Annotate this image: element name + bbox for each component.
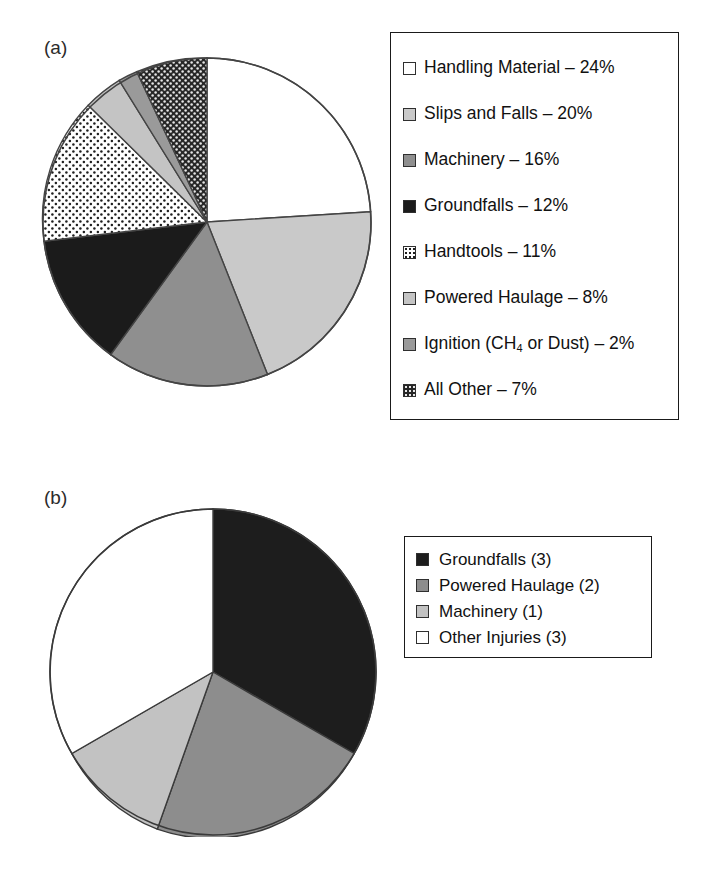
- legend-item-ignition: Ignition (CH4 or Dust) – 2%: [403, 321, 668, 367]
- legend-swatch-handtools: [403, 246, 416, 259]
- legend-item-handtools: Handtools – 11%: [403, 229, 668, 275]
- legend-swatch-b-groundfalls: [416, 553, 429, 566]
- figure-root: (a): [0, 0, 707, 884]
- legend-label-b-groundfalls: Groundfalls (3): [439, 551, 551, 568]
- pie-chart-a: [40, 55, 376, 391]
- legend-label-slips-and-falls: Slips and Falls – 20%: [424, 105, 592, 123]
- legend-swatch-b-machinery: [416, 605, 429, 618]
- legend-panel-a: Handling Material – 24% Slips and Falls …: [390, 32, 679, 420]
- legend-label-machinery: Machinery – 16%: [424, 151, 559, 169]
- pie-a-svg: [40, 55, 376, 391]
- legend-swatch-all-other: [403, 384, 416, 397]
- legend-item-powered-haulage: Powered Haulage – 8%: [403, 275, 668, 321]
- legend-item-groundfalls: Groundfalls – 12%: [403, 183, 668, 229]
- legend-swatch-b-powered-haulage: [416, 579, 429, 592]
- panel-label-b: (b): [44, 487, 67, 509]
- legend-item-all-other: All Other – 7%: [403, 367, 668, 413]
- legend-item-b-other-injuries: Other Injuries (3): [416, 624, 643, 650]
- legend-swatch-b-other-injuries: [416, 631, 429, 644]
- legend-label-b-machinery: Machinery (1): [439, 603, 543, 620]
- pie-b-slices: [50, 509, 376, 837]
- legend-item-handling-material: Handling Material – 24%: [403, 45, 668, 91]
- pie-a-slices: [42, 58, 371, 386]
- legend-label-all-other: All Other – 7%: [424, 381, 537, 399]
- legend-label-handtools: Handtools – 11%: [424, 243, 556, 261]
- legend-swatch-slips-and-falls: [403, 108, 416, 121]
- legend-item-b-groundfalls: Groundfalls (3): [416, 546, 643, 572]
- legend-swatch-ignition: [403, 338, 416, 351]
- legend-swatch-machinery: [403, 154, 416, 167]
- legend-label-groundfalls: Groundfalls – 12%: [424, 197, 568, 215]
- legend-item-b-machinery: Machinery (1): [416, 598, 643, 624]
- legend-item-machinery: Machinery – 16%: [403, 137, 668, 183]
- legend-label-b-powered-haulage: Powered Haulage (2): [439, 577, 600, 594]
- legend-item-b-powered-haulage: Powered Haulage (2): [416, 572, 643, 598]
- legend-item-slips-and-falls: Slips and Falls – 20%: [403, 91, 668, 137]
- pie-chart-b: [48, 507, 378, 837]
- legend-label-handling-material: Handling Material – 24%: [424, 59, 615, 77]
- legend-panel-b: Groundfalls (3) Powered Haulage (2) Mach…: [404, 536, 652, 658]
- legend-label-powered-haulage: Powered Haulage – 8%: [424, 289, 608, 307]
- legend-label-b-other-injuries: Other Injuries (3): [439, 629, 567, 646]
- legend-swatch-groundfalls: [403, 200, 416, 213]
- legend-swatch-powered-haulage: [403, 292, 416, 305]
- legend-swatch-handling-material: [403, 62, 416, 75]
- legend-label-ignition: Ignition (CH4 or Dust) – 2%: [424, 335, 634, 353]
- pie-b-svg: [48, 507, 378, 837]
- slice-handling-material: [207, 58, 371, 222]
